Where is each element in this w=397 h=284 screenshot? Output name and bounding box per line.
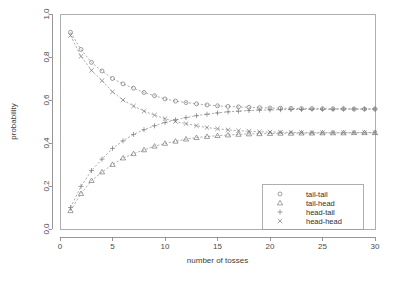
x-axis-tick-label: 20 <box>266 242 275 251</box>
data-point-marker <box>110 90 114 94</box>
series-line <box>71 36 376 133</box>
chart-legend: tail-tailtail-headhead-tailhead-head <box>262 184 363 229</box>
data-point-marker <box>121 82 125 86</box>
x-axis-tick-label: 30 <box>371 242 380 251</box>
probability-convergence-chart: 0.00.20.40.60.81.0 051015202530 number o… <box>0 0 397 284</box>
data-point-marker <box>236 109 241 114</box>
data-point-marker <box>111 77 115 81</box>
data-point-marker <box>142 109 146 113</box>
data-point-marker <box>131 132 136 137</box>
y-axis-tick-label: 0.0 <box>42 223 51 235</box>
y-axis-tick-label: 0.2 <box>42 180 51 192</box>
data-point-marker <box>183 115 188 120</box>
data-point-marker <box>351 107 356 112</box>
x-axis-tick-label: 10 <box>161 242 170 251</box>
y-axis-title: probability <box>9 103 18 139</box>
data-point-marker <box>132 86 136 90</box>
x-axis-tick-label: 0 <box>58 242 63 251</box>
data-point-marker <box>152 113 156 117</box>
series-head-head <box>68 33 377 135</box>
data-point-marker <box>341 107 346 112</box>
data-point-marker <box>110 146 115 151</box>
y-axis-tick-label: 0.8 <box>42 51 51 63</box>
y-axis: 0.00.20.40.60.81.0 <box>42 8 53 235</box>
data-point-marker <box>68 205 73 210</box>
x-axis-tick-label: 25 <box>318 242 327 251</box>
data-point-marker <box>215 110 220 115</box>
data-point-marker <box>372 107 377 112</box>
data-point-marker <box>100 69 104 73</box>
data-point-marker <box>152 123 157 128</box>
data-point-marker <box>194 113 199 118</box>
data-point-marker <box>121 98 125 102</box>
y-axis-tick-label: 0.4 <box>42 137 51 149</box>
data-point-marker <box>79 54 83 58</box>
data-point-marker <box>89 68 93 72</box>
data-point-marker <box>141 127 146 132</box>
x-axis-tick-label: 5 <box>110 242 115 251</box>
series-line <box>71 32 376 109</box>
x-axis-title: number of tosses <box>187 256 248 265</box>
data-point-marker <box>205 125 209 129</box>
y-axis-tick-label: 0.6 <box>42 94 51 106</box>
x-axis-tick-label: 15 <box>213 242 222 251</box>
legend-item-label: head-head <box>306 217 342 226</box>
data-point-marker <box>183 137 188 142</box>
x-axis: 051015202530 <box>58 237 380 251</box>
data-point-marker <box>131 104 135 108</box>
legend-item-label: tail-head <box>306 199 335 208</box>
data-point-marker <box>100 78 104 82</box>
y-axis-tick-label: 1.0 <box>42 8 51 20</box>
legend-item-label: tail-tail <box>306 190 328 199</box>
data-point-marker <box>120 138 125 143</box>
data-point-marker <box>152 144 157 149</box>
data-point-marker <box>225 109 230 114</box>
series-tail-tail <box>69 30 377 111</box>
legend-item-label: head-tail <box>306 208 335 217</box>
data-point-marker <box>78 184 83 189</box>
data-point-marker <box>215 133 220 138</box>
data-point-marker <box>246 131 251 136</box>
chart-container: 0.00.20.40.60.81.0 051015202530 number o… <box>0 0 397 284</box>
data-point-marker <box>141 147 146 152</box>
data-point-marker <box>204 112 209 117</box>
data-point-marker <box>362 107 367 112</box>
